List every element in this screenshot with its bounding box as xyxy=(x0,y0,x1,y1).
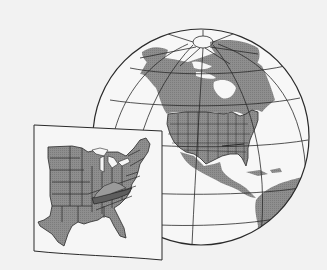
inset-map xyxy=(34,125,162,260)
map-illustration xyxy=(0,0,327,270)
